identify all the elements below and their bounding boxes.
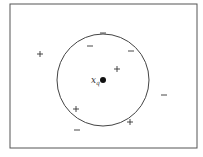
positive-point-marker (73, 106, 79, 112)
positive-point-marker (37, 51, 43, 57)
query-point-label: xq (91, 75, 100, 87)
positive-point-marker (114, 66, 120, 72)
positive-point-marker (127, 119, 133, 125)
query-point-dot (100, 77, 106, 83)
knn-diagram: xq (0, 0, 203, 157)
